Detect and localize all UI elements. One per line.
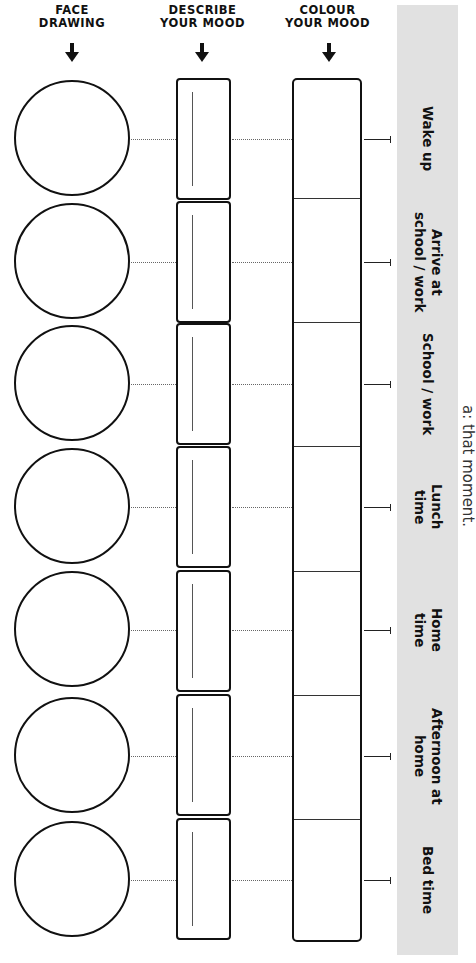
arrow-down-icon xyxy=(65,43,79,63)
dotted-connector xyxy=(131,630,176,631)
dotted-connector xyxy=(131,384,176,385)
colour-divider xyxy=(294,819,360,820)
arrow-down-icon xyxy=(195,43,209,63)
dotted-connector xyxy=(131,756,176,757)
describe-box-home-time[interactable] xyxy=(176,570,231,692)
header-face-drawing: FACE DRAWING xyxy=(22,4,122,30)
describe-box-lunch[interactable] xyxy=(176,446,231,568)
dotted-connector xyxy=(232,756,292,757)
colour-divider xyxy=(294,571,360,572)
write-line xyxy=(192,584,193,678)
tick-connector xyxy=(364,139,391,140)
tick-connector xyxy=(364,880,391,881)
tick-connector xyxy=(364,262,391,263)
tick-connector xyxy=(364,507,391,508)
face-circle-bed-time[interactable] xyxy=(14,821,130,937)
header-colour-mood: COLOUR YOUR MOOD xyxy=(275,4,380,30)
colour-divider xyxy=(294,322,360,323)
dotted-connector xyxy=(232,880,292,881)
row-label-bed-time: Bed time xyxy=(397,821,458,939)
describe-box-arrive[interactable] xyxy=(176,201,231,323)
row-label-home-time: Home time xyxy=(397,571,458,689)
describe-box-school-work[interactable] xyxy=(176,323,231,445)
colour-mood-column[interactable] xyxy=(292,78,362,942)
colour-divider xyxy=(294,446,360,447)
face-circle-school-work[interactable] xyxy=(14,325,130,441)
dotted-connector xyxy=(232,139,292,140)
colour-divider xyxy=(294,695,360,696)
tick-connector xyxy=(364,756,391,757)
face-circle-lunch[interactable] xyxy=(14,448,130,564)
colour-divider xyxy=(294,198,360,199)
arrow-down-icon xyxy=(322,43,336,63)
face-circle-afternoon[interactable] xyxy=(14,697,130,813)
dotted-connector xyxy=(232,507,292,508)
dotted-connector xyxy=(131,262,176,263)
row-label-lunch: Lunch time xyxy=(397,448,458,566)
row-label-wake-up: Wake up xyxy=(397,80,458,198)
row-label-school-work: School / work xyxy=(397,325,458,443)
write-line xyxy=(192,337,193,431)
row-label-arrive: Arrive at school / work xyxy=(397,203,458,321)
tick-connector xyxy=(364,630,391,631)
face-circle-wake-up[interactable] xyxy=(14,80,130,196)
write-line xyxy=(192,832,193,926)
write-line xyxy=(192,215,193,309)
write-line xyxy=(192,460,193,554)
dotted-connector xyxy=(232,630,292,631)
face-circle-arrive[interactable] xyxy=(14,203,130,319)
describe-box-afternoon[interactable] xyxy=(176,694,231,816)
dotted-connector xyxy=(131,507,176,508)
header-describe-mood: DESCRIBE YOUR MOOD xyxy=(150,4,255,30)
dotted-connector xyxy=(232,262,292,263)
describe-box-bed-time[interactable] xyxy=(176,818,231,940)
dotted-connector xyxy=(232,384,292,385)
tick-connector xyxy=(364,384,391,385)
row-label-afternoon: Afternoon at home xyxy=(397,697,458,815)
describe-box-wake-up[interactable] xyxy=(176,78,231,200)
dotted-connector xyxy=(131,139,176,140)
dotted-connector xyxy=(131,880,176,881)
write-line xyxy=(192,708,193,802)
write-line xyxy=(192,92,193,186)
face-circle-home-time[interactable] xyxy=(14,571,130,687)
side-caption: a: that moment. xyxy=(459,405,476,527)
